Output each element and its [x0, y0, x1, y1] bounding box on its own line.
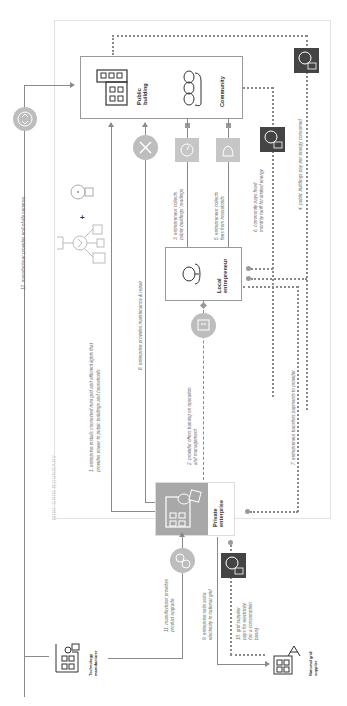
flow-5-label-2: fees from households	[220, 196, 226, 240]
flow-3-stub	[187, 118, 188, 126]
flow-6-line-top	[243, 87, 273, 89]
flow-1-label-1: 1. enterprise installs connected mini gr…	[89, 343, 95, 472]
flow-7-label: 7. entrepreneur transfers payments to pr…	[291, 370, 297, 465]
training-icon	[191, 313, 216, 338]
flow-1-arrow	[108, 122, 114, 127]
flow-5-line	[228, 128, 229, 138]
flow-10-line-bottom	[230, 654, 265, 656]
flow-9-line-bottom	[217, 664, 265, 665]
flow-11-line-bottom	[108, 658, 183, 659]
flow-4-line-top	[112, 35, 307, 37]
flow-5-line-down	[228, 162, 229, 247]
meter-money-icon-2	[260, 127, 285, 152]
public-building-label: Public building	[136, 73, 148, 105]
flow-8-arrow	[142, 122, 148, 127]
flow-1-line-bottom	[111, 511, 155, 512]
boundary-label: MINI-GRID BOUNDARY	[51, 454, 57, 520]
flow-12-label: 12. manufacturer provides end-of-life se…	[21, 197, 27, 290]
wrench-icon	[133, 135, 158, 160]
flow-5-stub	[228, 118, 229, 126]
flow-1-line	[111, 127, 112, 512]
flow-8-line	[145, 127, 146, 503]
meter-money-icon	[294, 48, 319, 73]
private-enterprise-label: Private enterprise	[212, 491, 224, 527]
local-entrepreneur-label: Local entrepreneur	[216, 255, 228, 293]
flow-10-label-3: (on a consumption	[248, 602, 254, 640]
flow-4-line-bottom	[251, 278, 307, 280]
meter-money-icon-3	[221, 553, 246, 578]
flow-4-line-stub	[112, 35, 114, 55]
flow-10-label-1: 10. grid supplier	[236, 607, 242, 640]
flow-7-line-bottom	[250, 511, 298, 513]
technology-manufacturer-label: Technology manufacturer	[88, 642, 98, 676]
flow-6-line-bottom	[251, 268, 273, 270]
community-label: Community	[219, 76, 225, 107]
public-building-community-node: Public building Community	[80, 56, 243, 119]
national-grid-supplier-label: National grid supplier	[308, 642, 318, 676]
flow-8-line-bottom	[145, 502, 155, 503]
flow-3-line	[187, 128, 188, 138]
flow-8-label: 8. enterprise provides maintenance & rep…	[138, 281, 144, 370]
flow-12-arrow	[70, 82, 75, 88]
flow-9-label-2: electricity to national grid	[208, 589, 214, 640]
connector-dot	[245, 509, 250, 514]
flow-12-line-top	[24, 85, 71, 86]
flow-5-label-1: 5. entrepreneur collects	[214, 192, 220, 240]
enterprise-icon	[156, 483, 208, 535]
flow-1-label-2: provides power to public buildings and h…	[96, 369, 102, 472]
flow-3-label-2: public buildings' readings	[179, 189, 185, 240]
technology-manufacturer-node: Technology manufacturer	[50, 640, 105, 678]
flow-3-line-down	[187, 162, 188, 247]
flow-11-label-2: product upgrade	[170, 599, 176, 632]
meter-reading-icon	[175, 138, 199, 162]
flow-2-label-2: and management	[193, 429, 199, 465]
upgrade-icon	[170, 548, 195, 573]
flow-11-label-1: 11. manufacturer provides	[164, 579, 170, 632]
flow-12-line-bottom	[24, 656, 49, 657]
flow-6-label-1: 6. community pays fixed	[253, 183, 259, 232]
recycle-icon	[13, 107, 37, 131]
flow-3-label-1: 3. entrepreneur collects	[173, 192, 179, 240]
local-entrepreneur-node: Local entrepreneur	[165, 247, 242, 301]
national-grid-supplier-node: National grid supplier	[270, 640, 325, 678]
flow-4-label: 4. public buildings pay per energy consu…	[298, 119, 304, 210]
flow-7-line	[297, 286, 299, 512]
flow-2-label-1: 2. provider offers training on operation	[187, 387, 193, 465]
flow-9-label-1: 9. enterprise sells extra	[202, 593, 208, 641]
flow-10-label-4: basis)	[254, 628, 260, 640]
flow-7-line-top	[243, 286, 298, 288]
private-enterprise-node: Private enterprise	[155, 482, 235, 536]
flow-4-line	[306, 35, 308, 410]
flow-6-label-2: monthly tariff for limited energy	[259, 169, 265, 232]
money-bag-icon	[216, 138, 240, 162]
flow-12-line	[24, 85, 25, 697]
flow-11-arrow	[179, 532, 185, 537]
flow-10-label-2: pays for electricity	[242, 603, 248, 640]
plus-icon: +	[80, 213, 85, 222]
flow-9-line	[217, 537, 218, 665]
